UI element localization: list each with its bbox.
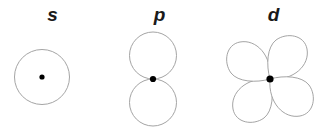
orbital-p-diagram: [105, 0, 210, 135]
orbital-figure: s p d: [0, 0, 329, 135]
d-nucleus-dot: [266, 75, 273, 82]
orbital-d-diagram: [210, 0, 329, 135]
orbital-s: s: [0, 0, 105, 135]
d-lobe-lower-right: [268, 36, 308, 80]
d-lobe-upper-left: [233, 79, 273, 123]
p-lobe-upper: [130, 32, 177, 79]
orbital-d: d: [210, 0, 329, 135]
orbital-p: p: [105, 0, 210, 135]
d-lobe-lower-left: [270, 77, 314, 117]
s-nucleus-dot: [39, 74, 44, 79]
d-lobe-upper-right: [227, 42, 271, 82]
p-lobe-lower: [130, 79, 177, 126]
p-nucleus-dot: [150, 76, 156, 82]
orbital-s-diagram: [0, 0, 105, 135]
